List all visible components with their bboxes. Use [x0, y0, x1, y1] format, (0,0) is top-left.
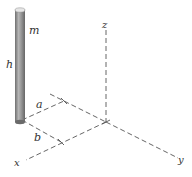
label-a: a	[36, 98, 43, 111]
label-height: h	[6, 58, 13, 71]
label-b: b	[34, 131, 41, 144]
distance-b-line	[22, 120, 61, 142]
label-y-axis: y	[177, 154, 184, 165]
axes-diagram: m h a b x y z	[0, 0, 192, 177]
distance-a-line	[22, 101, 64, 120]
tick-a	[61, 98, 67, 104]
diagram-canvas: m h a b x y z	[0, 0, 192, 177]
label-z-axis: z	[101, 19, 108, 30]
rod	[15, 8, 25, 124]
y-axis-negative	[50, 94, 106, 122]
y-axis	[106, 122, 178, 158]
label-mass: m	[29, 24, 39, 37]
label-x-axis: x	[14, 157, 20, 168]
